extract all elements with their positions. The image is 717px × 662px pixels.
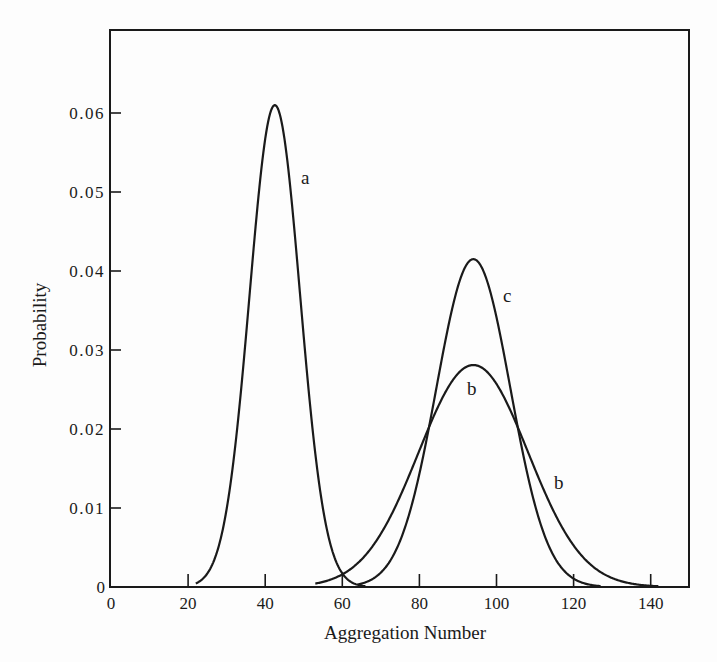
y-tick-label: 0.04 <box>69 262 105 281</box>
curves <box>196 105 659 586</box>
x-tick-label: 60 <box>334 594 351 613</box>
y-tick-label: 0 <box>97 578 106 597</box>
x-tick-label: 100 <box>484 594 510 613</box>
curve-label-a: a <box>301 167 310 188</box>
chart: 020406080100120140 00.010.020.030.040.05… <box>0 0 717 662</box>
y-tick-label: 0.06 <box>69 104 105 123</box>
curve-c <box>358 259 601 586</box>
curve-label-c: c <box>503 285 511 306</box>
x-tick-label: 80 <box>411 594 428 613</box>
x-tick-label: 20 <box>180 594 197 613</box>
y-tick-label: 0.05 <box>69 183 105 202</box>
x-tick-label: 140 <box>638 594 664 613</box>
y-tick-label: 0.01 <box>69 499 105 518</box>
plot-frame <box>110 30 689 587</box>
curve-label-b-inner: b <box>467 378 477 399</box>
y-axis-ticks: 00.010.020.030.040.050.06 <box>69 104 121 597</box>
x-tick-label: 0 <box>107 594 116 613</box>
x-axis-label: Aggregation Number <box>324 622 487 643</box>
x-axis-ticks: 020406080100120140 <box>107 574 664 613</box>
y-tick-label: 0.02 <box>69 420 105 439</box>
y-tick-label: 0.03 <box>69 341 105 360</box>
x-tick-label: 40 <box>257 594 274 613</box>
curve-label-b-outer: b <box>554 472 564 493</box>
y-axis-label: Probability <box>29 282 50 367</box>
curve-a <box>196 105 366 586</box>
curve-b <box>315 365 658 586</box>
x-tick-label: 120 <box>561 594 587 613</box>
